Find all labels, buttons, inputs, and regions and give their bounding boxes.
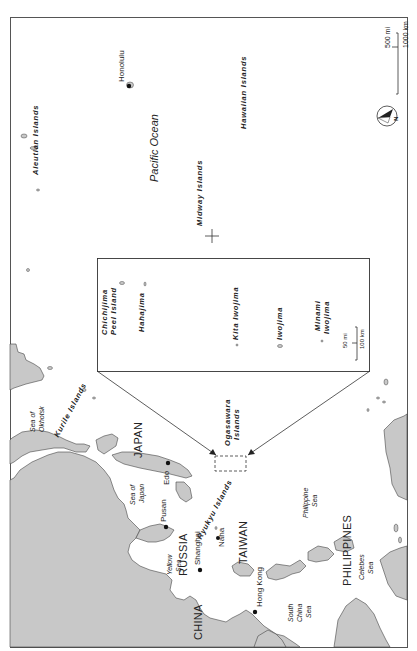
map-graphics xyxy=(0,0,417,651)
country-japan: JAPAN xyxy=(133,422,144,458)
country-philippines: PHILIPPINES xyxy=(342,515,353,586)
pusan-dot xyxy=(164,525,168,529)
sea-celebes-line2: Sea xyxy=(367,562,374,574)
sea-south-china-line2: China xyxy=(296,604,303,622)
inset-chichijima-line1: Chichijima xyxy=(101,289,109,335)
compass-north-label: N xyxy=(393,117,399,121)
inset-iwojima: Iwojima xyxy=(276,307,284,340)
pacific-ocean-label: Pacific Ocean xyxy=(149,114,160,182)
inset-kita-iwojima: Kita Iwojima xyxy=(232,287,240,340)
inset-chichijima-line2: Peel Island xyxy=(110,287,118,335)
sea-yellow-line1: Yellow xyxy=(166,555,173,575)
inset-minami-iwojima-line1: Minami xyxy=(314,300,322,331)
hong-kong-dot xyxy=(253,610,257,614)
city-edo: Edo xyxy=(163,471,171,485)
inset-scale-km: 100 km xyxy=(359,329,365,349)
sea-south-china-line1: South xyxy=(287,604,294,622)
city-honolulu: Honolulu xyxy=(118,50,126,82)
sea-okhotsk-line1: Sea of xyxy=(29,412,36,432)
sea-okhotsk-line2: Okhotsk xyxy=(38,406,45,432)
sea-philippine-line2: Sea xyxy=(311,495,318,507)
sea-celebes-line1: Celebes xyxy=(358,554,365,580)
scale-km: 1000 km xyxy=(402,21,409,48)
inset-hahajima: Hahajima xyxy=(138,292,146,332)
pacific-map: RUSSIA JAPAN CHINA TAIWAN PHILIPPINES Se… xyxy=(0,0,417,651)
country-china: CHINA xyxy=(193,604,204,640)
scale-miles: 500 mi xyxy=(384,27,391,48)
midway-islands-label: Midway Islands xyxy=(196,160,204,226)
inset-scale-miles: 50 mi xyxy=(342,333,348,348)
edo-dot xyxy=(166,461,170,465)
ogasawara-line2: Islands xyxy=(233,409,241,440)
hawaiian-islands-label: Hawaiian Islands xyxy=(240,56,248,129)
sea-japan-line1: Sea of xyxy=(129,485,136,505)
city-shanghai: Shanghai xyxy=(194,531,202,565)
shanghai-dot xyxy=(198,568,202,572)
sea-japan-line2: Japan xyxy=(138,484,145,503)
honolulu-dot xyxy=(127,84,131,88)
sea-south-china-line3: Sea xyxy=(305,606,312,618)
inset-minami-iwojima-line2: Iwojima xyxy=(323,301,331,334)
country-taiwan: TAIWAN xyxy=(238,521,249,564)
city-pusan: Pusan xyxy=(160,499,168,522)
ogasawara-line1: Ogasawara xyxy=(224,399,232,446)
city-hong-kong: Hong Kong xyxy=(256,567,264,607)
city-naha: Naha xyxy=(218,528,226,547)
sea-yellow-line2: Sea xyxy=(175,560,182,572)
aleutian-islands-label: Aleutian Islands xyxy=(32,105,40,175)
sea-philippine-line1: Philippine xyxy=(302,488,309,518)
